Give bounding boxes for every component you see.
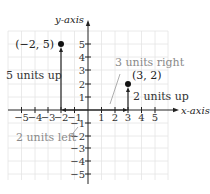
y-tick-label: −5 <box>70 169 85 180</box>
x-tick-labels: −5 −4 −3 −2 −1 1 2 3 4 5 <box>14 112 158 123</box>
x-tick-label: 4 <box>138 112 144 123</box>
y-tick-label: 4 <box>79 52 85 63</box>
point-b-marker <box>125 81 131 87</box>
arrow-up-icon <box>126 87 130 92</box>
y-tick-label: 5 <box>79 39 85 50</box>
y-tick-label: −4 <box>70 156 85 167</box>
y-axis-label: y-axis <box>54 14 84 25</box>
y-tick-label: 1 <box>79 92 85 103</box>
point-a-marker <box>58 41 64 47</box>
x-tick-label: 1 <box>98 112 104 123</box>
y-tick-label: −3 <box>70 143 85 154</box>
y-tick-labels: 5 4 3 2 1 −1 −2 −3 −4 −5 <box>70 39 85 180</box>
x-tick-label: 2 <box>112 112 118 123</box>
coordinate-plane: −5 −4 −3 −2 −1 1 2 3 4 5 5 4 3 2 1 −1 −2… <box>0 0 210 194</box>
path-to-point-b <box>88 87 130 112</box>
y-axis <box>85 20 91 184</box>
arrow-up-icon <box>59 47 63 52</box>
point-a-label: (−2, 5) <box>15 38 54 51</box>
annotation-two-left: 2 units left <box>16 131 77 144</box>
x-axis-label: x-axis <box>181 105 210 116</box>
annotation-five-up: 5 units up <box>6 69 62 82</box>
annotation-two-up: 2 units up <box>133 90 189 103</box>
point-b-label: (3, 2) <box>132 69 162 82</box>
y-tick-label: 3 <box>79 65 85 76</box>
y-tick-label: 2 <box>79 79 85 90</box>
annotation-three-right: 3 units right <box>115 56 185 69</box>
x-tick-label: 5 <box>152 112 158 123</box>
x-tick-label: 3 <box>125 112 131 123</box>
